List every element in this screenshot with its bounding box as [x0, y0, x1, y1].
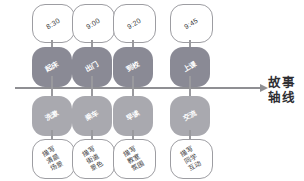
event-node-below-label: 乘车 [84, 109, 101, 123]
note-label: 描写 教室 氛围 [118, 142, 150, 175]
note-label: 描写 街道 景色 [77, 142, 109, 175]
time-label: 9:00 [85, 16, 101, 30]
time-label: 9:45 [183, 16, 199, 30]
time-bubble[interactable]: 9:20 [113, 4, 156, 43]
timeline-axis-label: 故事轴线 [268, 76, 295, 106]
time-bubble[interactable]: 9:00 [72, 4, 115, 43]
event-node-above-label: 起床 [44, 60, 61, 74]
note-label: 描写 清晨 场景 [37, 142, 69, 175]
time-label: 9:20 [126, 16, 142, 30]
event-node-below-label: 早读 [125, 109, 142, 123]
note-bubble[interactable]: 描写 教室 氛围 [113, 139, 156, 179]
event-node-above-label: 出门 [84, 60, 101, 74]
timeline-arrowhead [260, 84, 268, 92]
note-label: 描写 同学 互动 [175, 142, 207, 175]
event-node-above-label: 上课 [182, 60, 199, 74]
event-node-below-label: 洗漱 [44, 109, 61, 123]
note-bubble[interactable]: 描写 清晨 场景 [32, 139, 75, 179]
event-node-below-label: 交流 [182, 109, 199, 123]
note-bubble[interactable]: 描写 街道 景色 [72, 139, 115, 179]
story-timeline-diagram: 故事轴线 8:30 起床 洗漱 描写 清晨 场景 9:00 出门 乘车 [0, 0, 304, 181]
axis-label-line1: 故事 [268, 76, 295, 90]
event-node-above-label: 到校 [125, 60, 142, 74]
time-label: 8:30 [45, 16, 61, 30]
time-bubble[interactable]: 9:45 [170, 4, 213, 43]
note-bubble[interactable]: 描写 同学 互动 [170, 139, 213, 179]
time-bubble[interactable]: 8:30 [32, 4, 75, 43]
axis-label-line2: 轴线 [268, 91, 295, 105]
